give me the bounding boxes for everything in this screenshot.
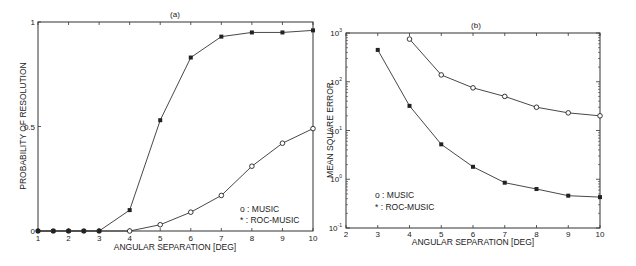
data-point	[158, 222, 163, 227]
data-point	[598, 114, 603, 119]
x-tick-label: 8	[534, 230, 539, 239]
x-tick-label: 2	[344, 230, 349, 239]
data-point	[219, 193, 224, 198]
data-point	[127, 229, 132, 234]
y-tick-label: 103	[330, 27, 342, 38]
chart-a-legend-roc: * : ROC-MUSIC	[240, 215, 300, 225]
data-point	[535, 187, 539, 191]
x-tick-label: 4	[127, 234, 132, 243]
y-tick-label: 100	[330, 173, 342, 184]
series-line-roc-music	[378, 50, 600, 197]
y-tick-label: 0	[31, 227, 36, 236]
data-point	[566, 111, 571, 116]
data-point	[502, 94, 507, 99]
y-tick-label: 101	[330, 125, 342, 136]
y-tick-label: 0.5	[24, 123, 36, 132]
data-point	[439, 73, 444, 78]
chart-b-legend-music: o : MUSIC	[375, 190, 414, 200]
data-point	[189, 56, 193, 60]
x-tick-label: 10	[309, 234, 318, 243]
x-tick-label: 2	[66, 234, 71, 243]
chart-b: (b) ANGULAR SEPARATION [DEG] MEAN SQUARE…	[325, 21, 605, 247]
x-tick-label: 8	[250, 234, 255, 243]
x-tick-label: 7	[503, 230, 508, 239]
data-point	[82, 229, 86, 233]
data-point	[311, 126, 316, 131]
x-tick-label: 5	[439, 230, 444, 239]
x-tick-label: 3	[97, 234, 102, 243]
data-point	[376, 48, 380, 52]
chart-a-xlabel: ANGULAR SEPARATION [DEG]	[114, 242, 237, 252]
data-point	[51, 229, 55, 233]
y-tick-label: 1	[31, 18, 36, 27]
data-point	[471, 86, 476, 91]
x-tick-label: 1	[36, 234, 41, 243]
data-point	[471, 165, 475, 169]
chart-a-legend-music: o : MUSIC	[240, 204, 279, 214]
x-tick-label: 9	[566, 230, 571, 239]
x-tick-label: 6	[471, 230, 476, 239]
series-line-music	[410, 39, 601, 116]
data-point	[67, 229, 71, 233]
x-tick-label: 4	[407, 230, 412, 239]
figure: (a) ANGULAR SEPARATION [DEG] PROBABILITY…	[0, 0, 636, 266]
x-tick-label: 6	[189, 234, 194, 243]
chart-b-series	[376, 37, 603, 199]
x-tick-label: 5	[158, 234, 163, 243]
data-point	[534, 105, 539, 110]
data-point	[566, 194, 570, 198]
y-tick-label: 10-1	[329, 222, 343, 233]
chart-b-legend-roc: * : ROC-MUSIC	[375, 202, 435, 212]
plot-frame-a	[38, 22, 313, 231]
chart-a-series	[36, 28, 316, 233]
data-point	[408, 104, 412, 108]
chart-b-title: (b)	[471, 21, 481, 30]
data-point	[280, 30, 284, 34]
x-tick-label: 7	[219, 234, 224, 243]
data-point	[158, 118, 162, 122]
data-point	[97, 229, 101, 233]
x-tick-label: 9	[280, 234, 285, 243]
x-tick-label: 10	[596, 230, 605, 239]
data-point	[311, 28, 315, 32]
y-tick-label: 102	[330, 76, 342, 87]
chart-a: (a) ANGULAR SEPARATION [DEG] PROBABILITY…	[18, 10, 318, 252]
data-point	[128, 208, 132, 212]
data-point	[250, 164, 255, 169]
chart-b-ticks: 234567891010-1100101102103	[329, 27, 605, 239]
series-line-roc-music	[38, 30, 313, 231]
data-point	[503, 181, 507, 185]
data-point	[36, 229, 40, 233]
data-point	[280, 141, 285, 146]
data-point	[250, 30, 254, 34]
data-point	[407, 37, 412, 42]
x-tick-label: 3	[376, 230, 381, 239]
data-point	[439, 142, 443, 146]
data-point	[598, 195, 602, 199]
data-point	[219, 35, 223, 39]
data-point	[188, 210, 193, 215]
chart-a-title: (a)	[170, 10, 180, 19]
